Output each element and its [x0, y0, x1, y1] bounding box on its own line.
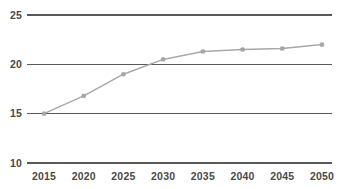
y-axis-tick-label: 20 [10, 58, 22, 70]
data-point-marker [241, 48, 245, 52]
data-point-marker [201, 50, 205, 54]
data-point-marker [82, 94, 86, 98]
y-axis-tick-label: 25 [10, 9, 22, 21]
data-point-marker [161, 58, 165, 62]
x-axis-tick-label: 2035 [191, 170, 215, 182]
x-axis-tick-label: 2040 [230, 170, 254, 182]
x-axis-tick-label: 2025 [111, 170, 135, 182]
x-axis-tick-label: 2045 [270, 170, 294, 182]
x-axis-tick-label: 2015 [32, 170, 56, 182]
series-line-path [44, 45, 322, 114]
x-axis-tick-label: 2030 [151, 170, 175, 182]
gridlines-group [27, 15, 332, 163]
x-axis-tick-label: 2050 [310, 170, 334, 182]
y-axis-tick-label: 15 [10, 107, 22, 119]
data-point-marker [42, 112, 46, 116]
data-point-marker [280, 47, 284, 51]
data-point-marker [122, 72, 126, 76]
data-point-marker [320, 43, 324, 47]
y-axis-tick-labels: 10152025 [10, 9, 22, 169]
series-markers-group [42, 43, 324, 116]
x-axis-tick-labels: 20152020202520302035204020452050 [32, 170, 334, 182]
y-axis-tick-label: 10 [10, 157, 22, 169]
line-chart-figure: 10152025 2015202020252030203520402045205… [0, 0, 339, 189]
chart-canvas: 10152025 2015202020252030203520402045205… [0, 0, 339, 189]
x-axis-tick-label: 2020 [72, 170, 96, 182]
